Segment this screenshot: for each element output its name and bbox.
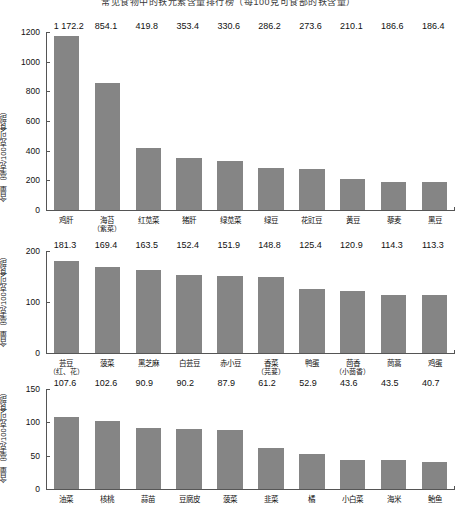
x-axis-category-label: 小白菜 [332, 495, 373, 504]
bar-value-label: 90.9 [136, 378, 154, 388]
x-axis-category-name: 菠菜 [100, 359, 114, 368]
chart-1-y-axis-title: 含量（毫克/100克可食部） [0, 72, 8, 202]
bar: 181.3 [54, 261, 79, 353]
bar-column: 114.3 [373, 251, 414, 353]
bar: 90.2 [176, 429, 201, 489]
x-axis-category-name: 海苔 [100, 216, 114, 225]
x-axis-category-sublabel: （紫菜） [87, 225, 128, 234]
bar-value-label: 419.8 [136, 21, 159, 31]
chart-2-x-axis-labels: 芸豆（红、花）菠菜黑芝麻白芸豆赤小豆香菜（芫荽）鸭蛋茴香（小茴香）茼蒿鸡蛋 [46, 359, 455, 377]
bar-value-label: 186.6 [381, 21, 404, 31]
bar-value-label: 102.6 [95, 378, 118, 388]
bar: 152.4 [176, 275, 201, 353]
bar-value-label: 114.3 [381, 240, 403, 250]
bar: 87.9 [217, 430, 242, 489]
x-axis-category-label: 芸豆（红、花） [46, 359, 87, 377]
bar: 286.2 [258, 168, 283, 210]
bar-column: 286.2 [251, 32, 292, 210]
bar-value-label: 43.5 [381, 378, 399, 388]
bar: 43.5 [381, 460, 406, 489]
bar-column: 61.2 [251, 389, 292, 489]
bar-value-label: 181.3 [54, 240, 77, 250]
bar-column: 120.9 [332, 251, 373, 353]
x-axis-category-name: 茼蒿 [387, 359, 401, 368]
x-axis-category-label: 绿豆 [251, 216, 292, 234]
bar: 107.6 [54, 417, 79, 489]
x-axis-category-label: 香菜（芫荽） [251, 359, 292, 377]
bar-column: 1 172.2 [46, 32, 87, 210]
chart-2-x-axis-line [46, 353, 455, 354]
bar-column: 419.8 [128, 32, 169, 210]
bar: 40.7 [422, 462, 447, 489]
chart-1-x-axis-end-tick [454, 207, 455, 210]
chart-1-y-tick-label: 400 [26, 146, 40, 156]
x-axis-category-label: 菠菜 [87, 359, 128, 377]
x-axis-category-label: 鸭蛋 [291, 359, 332, 377]
chart-2-x-axis-end-tick [454, 350, 455, 353]
bar-column: 113.3 [414, 251, 455, 353]
chart-2-y-axis-line [46, 251, 47, 353]
chart-3-y-axis-title: 含量（毫克/100克可食部） [0, 389, 8, 483]
chart-3-y-axis: 050100150 [12, 389, 46, 489]
bar-value-label: 186.4 [422, 21, 445, 31]
x-axis-category-label: 菠菜 [210, 495, 251, 504]
x-axis-category-label: 黄豆 [332, 216, 373, 234]
bar: 330.6 [217, 161, 242, 210]
x-axis-category-name: 黄豆 [346, 216, 360, 225]
x-axis-category-name: 鸡蛋 [428, 359, 442, 368]
bar-column: 90.2 [169, 389, 210, 489]
bar: 113.3 [422, 295, 447, 353]
bar: 1 172.2 [54, 36, 79, 210]
x-axis-category-name: 韭菜 [264, 495, 278, 504]
x-axis-category-label: 豆腐皮 [169, 495, 210, 504]
bar: 169.4 [95, 267, 120, 353]
bar-column: 152.4 [169, 251, 210, 353]
x-axis-category-label: 核桃 [87, 495, 128, 504]
x-axis-category-label: 藜麦 [373, 216, 414, 234]
bar: 52.9 [299, 454, 324, 489]
x-axis-category-label: 茴香（小茴香） [332, 359, 373, 377]
x-axis-category-label: 黑芝麻 [128, 359, 169, 377]
bar-value-label: 1 172.2 [54, 21, 84, 31]
x-axis-category-label: 白芸豆 [169, 359, 210, 377]
bar: 148.8 [258, 277, 283, 353]
x-axis-category-label: 韭菜 [251, 495, 292, 504]
bar-column: 43.5 [373, 389, 414, 489]
x-axis-category-label: 海米 [373, 495, 414, 504]
chart-3-x-axis-end-tick [454, 486, 455, 489]
chart-1-y-tick-label: 200 [26, 175, 40, 185]
bar-value-label: 107.6 [54, 378, 77, 388]
bar-column: 186.6 [373, 32, 414, 210]
bar-column: 148.8 [251, 251, 292, 353]
x-axis-category-name: 海米 [387, 495, 401, 504]
chart-panel-1: 含量（毫克/100克可食部） 020040060080010001200 1 1… [0, 20, 457, 238]
bar-column: 330.6 [210, 32, 251, 210]
chart-1-y-axis: 020040060080010001200 [12, 32, 46, 210]
x-axis-category-name: 茴香 [346, 359, 360, 368]
x-axis-category-name: 黑芝麻 [138, 359, 159, 368]
bar-value-label: 151.9 [217, 240, 240, 250]
x-axis-category-name: 油菜 [59, 495, 73, 504]
chart-3-x-axis-labels: 油菜核桃蒜苗豆腐皮菠菜韭菜橘小白菜海米鲐鱼 [46, 495, 455, 504]
x-axis-category-label: 红苋菜 [128, 216, 169, 234]
bar-value-label: 152.4 [176, 240, 199, 250]
chart-2-y-tick-label: 200 [26, 246, 40, 256]
x-axis-category-label: 花豇豆 [291, 216, 332, 234]
bar: 43.6 [340, 460, 365, 489]
x-axis-category-name: 赤小豆 [220, 359, 241, 368]
x-axis-category-name: 白芸豆 [179, 359, 200, 368]
bar-column: 353.4 [169, 32, 210, 210]
bar-value-label: 148.8 [258, 240, 281, 250]
x-axis-category-label: 茼蒿 [373, 359, 414, 377]
chart-3-y-tick-label: 50 [31, 451, 40, 461]
x-axis-category-label: 海苔（紫菜） [87, 216, 128, 234]
bar: 102.6 [95, 421, 120, 489]
chart-3-y-tick-label: 0 [35, 484, 40, 494]
chart-2-y-axis-title: 含量（毫克/100克可食部） [0, 251, 8, 347]
chart-3-x-axis-line [46, 489, 455, 490]
chart-3-y-tick-label: 150 [26, 384, 40, 394]
bar: 114.3 [381, 295, 406, 353]
bar: 90.9 [136, 428, 161, 489]
bar: 854.1 [95, 83, 120, 210]
chart-1-y-tick-label: 1000 [21, 57, 40, 67]
